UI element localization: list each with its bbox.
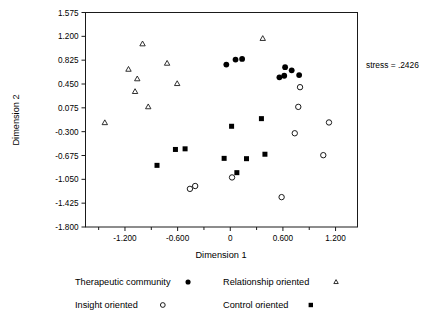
data-point	[296, 104, 301, 109]
legend-entry: Relationship oriented	[223, 277, 338, 287]
data-points-layer	[102, 36, 332, 200]
legend-marker-filled-circle	[185, 279, 190, 284]
y-tick-label: 0.825	[58, 56, 79, 65]
y-tick-label: -0.675	[55, 152, 79, 161]
data-point	[126, 66, 131, 71]
data-point	[173, 147, 178, 152]
data-point	[174, 81, 179, 86]
data-point	[297, 84, 302, 89]
data-point	[233, 57, 239, 63]
legend-marker-open-triangle	[334, 280, 338, 284]
data-point	[146, 104, 151, 109]
data-point	[326, 120, 331, 125]
y-tick-label: -1.425	[55, 199, 79, 208]
plot-frame	[86, 13, 358, 228]
data-point	[164, 60, 169, 65]
data-point	[244, 156, 249, 161]
legend: Therapeutic communityRelationship orient…	[75, 277, 338, 310]
x-tick-label: 0.600	[273, 234, 294, 243]
legend-entry: Control oriented	[223, 300, 313, 310]
data-point	[289, 67, 295, 73]
y-tick-label: -1.800	[55, 223, 79, 232]
data-point	[183, 146, 188, 151]
data-point	[239, 56, 245, 62]
stress-annotation: stress = .2426	[366, 60, 419, 70]
y-axis: 1.5751.2000.8250.4500.075-0.300-0.675-1.…	[55, 9, 85, 233]
legend-label: Relationship oriented	[223, 277, 309, 287]
x-axis-title: Dimension 1	[195, 250, 246, 260]
data-point	[292, 131, 297, 136]
data-point	[155, 163, 160, 168]
data-point	[279, 194, 284, 199]
y-tick-label: -1.050	[55, 175, 79, 184]
series-relationship-oriented	[102, 36, 265, 125]
legend-marker-open-circle	[160, 303, 165, 308]
y-tick-label: 1.575	[58, 9, 79, 18]
y-axis-title: Dimension 2	[11, 94, 21, 145]
legend-entry: Therapeutic community	[75, 277, 191, 287]
data-point	[187, 186, 192, 191]
data-point	[223, 62, 229, 68]
data-point	[140, 41, 145, 46]
data-point	[192, 183, 197, 188]
data-point	[282, 64, 288, 70]
data-point	[135, 76, 140, 81]
scatter-plot-figure: 1.5751.2000.8250.4500.075-0.300-0.675-1.…	[0, 0, 447, 323]
x-tick-label: -0.600	[166, 234, 190, 243]
legend-label: Insight oriented	[75, 300, 138, 310]
x-tick-label: 1.200	[325, 234, 346, 243]
data-point	[102, 120, 107, 125]
mds-scatter-plot: 1.5751.2000.8250.4500.075-0.300-0.675-1.…	[0, 0, 447, 323]
x-tick-label: 0	[228, 234, 233, 243]
y-tick-label: 1.200	[58, 32, 79, 41]
series-control-oriented	[155, 116, 268, 175]
data-point	[262, 152, 267, 157]
data-point	[259, 116, 264, 121]
series-insight-oriented	[187, 84, 331, 199]
data-point	[132, 89, 137, 94]
y-tick-label: -0.300	[55, 128, 79, 137]
data-point	[260, 36, 265, 41]
data-point	[234, 170, 239, 175]
data-point	[296, 72, 302, 78]
legend-marker-filled-square	[309, 303, 313, 307]
y-tick-label: 0.075	[58, 104, 79, 113]
legend-label: Therapeutic community	[75, 277, 171, 287]
data-point	[229, 124, 234, 129]
data-point	[281, 73, 287, 79]
x-tick-label: -1.200	[113, 234, 137, 243]
x-axis: -1.200-0.60000.6001.200	[99, 227, 347, 243]
y-tick-label: 0.450	[58, 80, 79, 89]
legend-entry: Insight oriented	[75, 300, 165, 310]
series-therapeutic-community	[223, 56, 302, 80]
data-point	[321, 152, 326, 157]
data-point	[222, 156, 227, 161]
legend-label: Control oriented	[223, 300, 288, 310]
data-point	[229, 175, 234, 180]
